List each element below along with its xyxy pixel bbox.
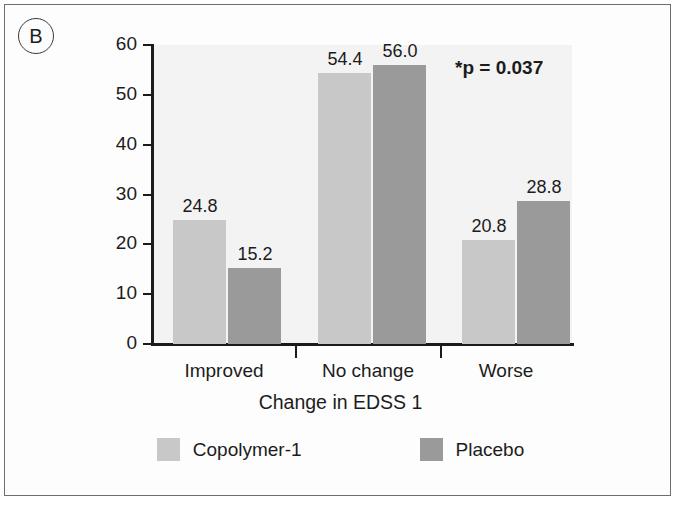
- y-tick-60: [143, 44, 152, 46]
- y-tick-label-0: 0: [97, 332, 137, 354]
- x-category-label-improved: Improved: [152, 360, 296, 382]
- x-group-tick-2: [440, 345, 442, 358]
- y-tick-label-20: 20: [97, 232, 137, 254]
- bar-improved-copolymer1: [173, 220, 226, 344]
- legend-item-copolymer1: Copolymer-1: [157, 438, 302, 461]
- y-tick-0: [143, 343, 152, 345]
- chart-legend: Copolymer-1 Placebo: [0, 438, 681, 461]
- bar-nochange-copolymer1: [318, 73, 371, 344]
- panel-letter-badge: B: [18, 18, 54, 54]
- y-tick-label-30: 30: [97, 183, 137, 205]
- x-axis-title: Change in EDSS 1: [0, 391, 681, 414]
- figure-panel-b: B Percent change (baseline vs. conclusio…: [0, 0, 681, 506]
- legend-item-placebo: Placebo: [420, 438, 525, 461]
- y-tick-label-40: 40: [97, 133, 137, 155]
- bar-value-nochange-copolymer1: 54.4: [319, 49, 371, 70]
- bar-value-improved-copolymer1: 24.8: [174, 196, 226, 217]
- bar-value-worse-placebo: 28.8: [518, 177, 570, 198]
- y-tick-label-60: 60: [97, 33, 137, 55]
- y-tick-label-10: 10: [97, 282, 137, 304]
- x-category-label-worse: Worse: [440, 360, 572, 382]
- y-tick-20: [143, 243, 152, 245]
- legend-swatch-placebo: [420, 438, 443, 461]
- bar-worse-placebo: [517, 201, 570, 344]
- legend-swatch-copolymer1: [157, 438, 180, 461]
- y-tick-30: [143, 194, 152, 196]
- x-category-label-no-change: No change: [296, 360, 440, 382]
- x-group-tick-1: [295, 345, 297, 358]
- bar-worse-copolymer1: [462, 240, 515, 344]
- bar-nochange-placebo: [373, 65, 426, 344]
- p-value-annotation: *p = 0.037: [455, 57, 543, 79]
- legend-label-placebo: Placebo: [456, 439, 525, 461]
- bar-value-worse-copolymer1: 20.8: [463, 216, 515, 237]
- y-tick-40: [143, 144, 152, 146]
- bar-value-nochange-placebo: 56.0: [374, 41, 426, 62]
- legend-label-copolymer1: Copolymer-1: [193, 439, 302, 461]
- bar-improved-placebo: [228, 268, 281, 344]
- y-tick-50: [143, 94, 152, 96]
- y-tick-label-50: 50: [97, 83, 137, 105]
- panel-letter-text: B: [29, 25, 42, 48]
- y-tick-10: [143, 293, 152, 295]
- bar-value-improved-placebo: 15.2: [229, 244, 281, 265]
